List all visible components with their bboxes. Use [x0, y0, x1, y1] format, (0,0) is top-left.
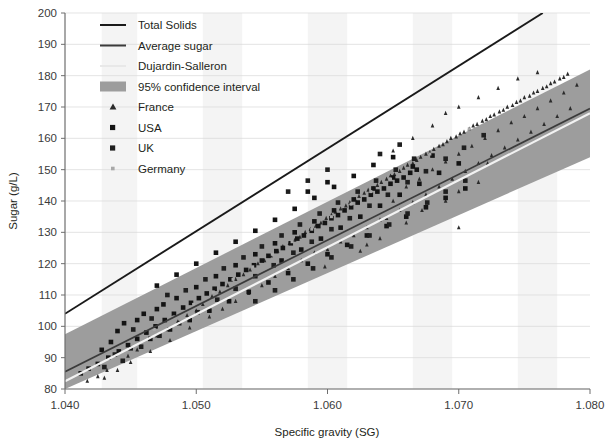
- legend-square-swatch: [110, 125, 115, 130]
- data-point-square: [371, 163, 376, 168]
- data-point-square: [417, 181, 422, 186]
- data-point-square: [425, 200, 430, 205]
- data-point-square: [286, 271, 291, 276]
- data-point-square: [408, 171, 413, 176]
- data-point-square: [388, 181, 393, 186]
- data-point-square: [411, 164, 416, 169]
- data-point-square: [325, 180, 330, 185]
- y-tick-label: 200: [38, 7, 57, 19]
- data-point-square: [332, 185, 337, 190]
- y-tick-label: 150: [38, 164, 57, 176]
- legend-label: Germany: [138, 163, 186, 175]
- data-point-square: [371, 186, 376, 191]
- data-point-square: [311, 266, 316, 271]
- data-point-square: [120, 359, 125, 364]
- data-point-square: [194, 261, 199, 266]
- data-point-square: [220, 282, 225, 287]
- data-point-square: [266, 254, 271, 259]
- data-point-square: [260, 258, 265, 263]
- legend-label: 95% confidence interval: [138, 81, 260, 93]
- x-tick-label: 1.060: [313, 399, 342, 411]
- x-tick-label: 1.040: [51, 399, 80, 411]
- x-axis-title: Specific gravity (SG): [275, 426, 380, 438]
- data-point-square: [298, 222, 303, 227]
- data-point-square: [323, 221, 328, 226]
- legend-square-swatch: [110, 145, 115, 150]
- data-point-square-small: [310, 228, 313, 231]
- data-point-square: [437, 171, 442, 176]
- data-point-square: [463, 186, 468, 191]
- data-point-square: [317, 211, 322, 216]
- data-point-square: [183, 288, 188, 293]
- data-point-square: [329, 255, 334, 260]
- data-point-square: [214, 274, 219, 279]
- data-point-square: [395, 178, 400, 183]
- data-point-square: [393, 167, 398, 172]
- data-point-square: [336, 200, 341, 205]
- data-point-square: [401, 175, 406, 180]
- x-tick-label: 1.050: [182, 399, 211, 411]
- data-point-square: [443, 189, 448, 194]
- y-axis-title: Sugar (g/L): [7, 172, 19, 230]
- data-point-square: [253, 252, 258, 257]
- data-point-square: [214, 250, 219, 255]
- y-tick-label: 110: [39, 289, 57, 301]
- scatter-chart: 8090100110120130140150160170180190200 1.…: [0, 0, 612, 448]
- data-point-square-small: [468, 127, 471, 130]
- data-point-square: [312, 219, 317, 224]
- data-point-square: [367, 203, 372, 208]
- legend-label: Average sugar: [138, 40, 213, 52]
- data-point-square: [122, 321, 127, 326]
- data-point-square: [355, 189, 360, 194]
- data-point-square: [309, 239, 314, 244]
- data-point-square: [174, 296, 179, 301]
- data-point-square: [233, 239, 238, 244]
- data-point-square: [165, 293, 170, 298]
- legend-square-small-swatch: [111, 167, 115, 171]
- y-tick-label: 180: [38, 70, 57, 82]
- data-point-square: [281, 246, 286, 251]
- data-point-square: [358, 214, 363, 219]
- legend-label: France: [138, 101, 174, 113]
- data-point-square: [236, 272, 241, 277]
- data-point-square: [306, 261, 311, 266]
- data-point-square: [369, 192, 374, 197]
- data-point-square: [412, 156, 417, 161]
- data-point-square: [102, 365, 107, 370]
- data-point-square-small: [428, 153, 431, 156]
- data-point-square: [291, 277, 296, 282]
- data-point-square: [139, 344, 144, 349]
- data-point-square: [302, 233, 307, 238]
- data-point-square: [424, 205, 429, 210]
- data-point-square: [253, 299, 258, 304]
- data-point-square: [345, 243, 350, 248]
- data-point-square: [273, 218, 278, 223]
- data-point-square: [424, 169, 429, 174]
- data-point-square-small: [291, 240, 294, 243]
- data-point-square: [378, 152, 383, 157]
- x-tick-label: 1.070: [444, 399, 473, 411]
- data-point-square: [155, 307, 160, 312]
- data-point-square-small: [330, 215, 333, 218]
- data-point-square: [266, 280, 271, 285]
- data-point-square: [405, 211, 410, 216]
- data-point-square: [325, 252, 330, 257]
- data-point-square: [397, 192, 402, 197]
- data-point-square: [362, 197, 367, 202]
- data-point-square: [155, 283, 160, 288]
- data-point-square-small: [192, 303, 195, 306]
- data-point-square: [312, 196, 317, 201]
- y-tick-label: 170: [38, 101, 57, 113]
- data-point-square: [443, 196, 448, 201]
- legend-band-swatch: [100, 82, 126, 92]
- data-point-square: [405, 180, 410, 185]
- data-point-square-small: [389, 178, 392, 181]
- data-point-square: [462, 145, 467, 150]
- data-point-square: [367, 233, 372, 238]
- data-point-square: [342, 208, 347, 213]
- data-point-square: [246, 290, 251, 295]
- data-point-square: [378, 203, 383, 208]
- data-point-square: [295, 236, 300, 241]
- data-point-square: [253, 228, 258, 233]
- data-point-square: [260, 244, 265, 249]
